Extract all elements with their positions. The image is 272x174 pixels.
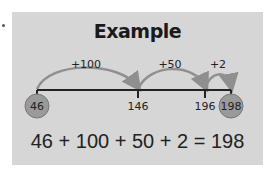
jump-arrow-2 bbox=[205, 74, 231, 89]
jump-arrows bbox=[37, 68, 231, 89]
jump-arrow-50 bbox=[138, 69, 205, 89]
point-label: 198 bbox=[221, 100, 242, 113]
number-line-diagram: +100 +50 +2 46 146 196 198 bbox=[0, 0, 272, 174]
point-label: 46 bbox=[30, 100, 44, 113]
jump-label: +50 bbox=[158, 58, 181, 71]
jump-label: +2 bbox=[210, 58, 226, 71]
point-label: 196 bbox=[195, 100, 216, 113]
point-label: 146 bbox=[128, 100, 149, 113]
jump-label: +100 bbox=[71, 58, 101, 71]
